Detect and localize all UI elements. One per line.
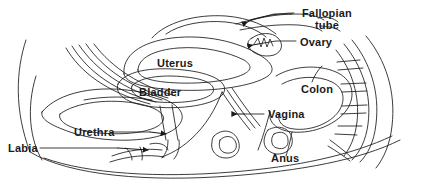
label-uterus: Uterus [157,57,193,69]
label-fallopian-tube-line1: Fallopian [296,8,358,20]
label-labia: Labia [8,142,38,154]
label-fallopian-tube: Fallopian tube [296,8,358,31]
label-ovary: Ovary [300,36,332,48]
label-urethra: Urethra [74,126,115,138]
label-fallopian-tube-line2: tube [296,20,358,32]
label-anus: Anus [271,152,299,164]
label-bladder: Bladder [139,86,181,98]
label-vagina: Vagina [268,108,305,120]
anatomy-diagram: Fallopian tube Ovary Uterus Bladder Colo… [0,0,421,184]
label-colon: Colon [301,83,333,95]
